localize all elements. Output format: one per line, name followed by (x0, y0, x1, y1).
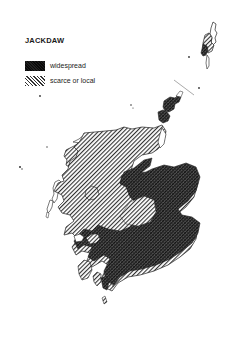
leader-line (174, 80, 194, 95)
orkney-islands (130, 91, 183, 123)
shetland-islands (188, 22, 217, 89)
distribution-map (0, 0, 226, 344)
stray-dot (39, 95, 41, 97)
